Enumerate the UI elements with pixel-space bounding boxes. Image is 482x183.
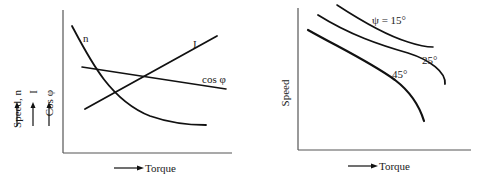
right-curve-psi-45-label: 45° <box>392 68 407 80</box>
right-curve-psi-15-label: ψ = 15° <box>372 14 406 26</box>
left-curve-current-label: I <box>193 38 197 50</box>
right-x-axis-label: Torque <box>379 160 410 172</box>
right-curve-psi-25-label: 25° <box>422 54 437 66</box>
left-curve-speed-label: n <box>83 32 89 44</box>
left-x-axis-label: Torque <box>145 162 176 174</box>
left-y-axis-labels: Speed, n I Cos φ <box>11 90 55 128</box>
arrow-right-icon <box>137 166 144 171</box>
left-curve-current <box>85 36 217 109</box>
left-curve-power-factor-label: cos φ <box>202 73 226 85</box>
arrow-up-icon <box>31 102 36 108</box>
right-figure: ψ = 15° 25° 45° Speed Torque <box>279 5 471 172</box>
y-label-current: I <box>27 90 39 94</box>
arrow-right-icon <box>371 164 378 169</box>
right-y-axis-label: Speed <box>279 79 291 106</box>
left-figure: n I cos φ Speed, n I Cos φ <box>11 10 232 174</box>
right-curve-psi-15 <box>337 5 433 47</box>
diagram-canvas: n I cos φ Speed, n I Cos φ <box>0 0 482 183</box>
